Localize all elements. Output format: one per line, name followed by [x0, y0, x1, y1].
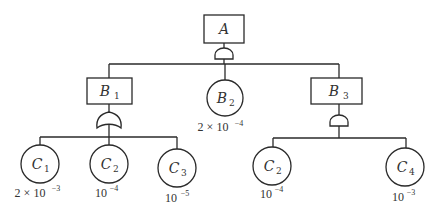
svg-text:10: 10	[260, 187, 272, 201]
and-gate-icon	[215, 48, 233, 59]
svg-text:3: 3	[181, 168, 187, 178]
svg-text:4: 4	[409, 167, 415, 177]
svg-text:−3: −3	[52, 184, 61, 193]
svg-text:−4: −4	[235, 119, 244, 128]
svg-text:−4: −4	[275, 185, 284, 194]
svg-text:−4: −4	[110, 184, 119, 193]
svg-text:3: 3	[343, 91, 349, 101]
svg-text:2: 2	[276, 166, 282, 176]
basic-event-c2-right: C 2 10 −4	[253, 147, 291, 201]
basic-event-c3: C 3 10 −5	[158, 149, 196, 205]
svg-text:C: C	[101, 156, 112, 172]
svg-text:C: C	[264, 158, 275, 174]
svg-text:2 × 10: 2 × 10	[198, 120, 229, 134]
basic-event-c1: C 1 2 × 10 −3	[15, 145, 61, 200]
svg-text:2: 2	[113, 164, 119, 174]
basic-event-c4: C 4 10 −3	[386, 148, 424, 204]
fault-tree-diagram: A B 1 B 2 2 × 10 −4 B 3 C 1	[0, 0, 447, 213]
svg-text:10: 10	[95, 186, 107, 200]
svg-text:2: 2	[229, 98, 235, 108]
event-label-a: A	[217, 21, 229, 37]
svg-text:1: 1	[114, 91, 120, 101]
svg-text:10: 10	[165, 191, 177, 205]
svg-text:1: 1	[44, 164, 50, 174]
svg-text:10: 10	[392, 190, 404, 204]
top-event-a: A	[204, 15, 244, 43]
svg-text:−3: −3	[407, 188, 416, 197]
svg-text:C: C	[169, 160, 180, 176]
svg-text:C: C	[32, 156, 43, 172]
svg-text:B: B	[328, 83, 339, 99]
intermediate-event-b3: B 3	[311, 78, 362, 104]
and-gate-icon	[330, 115, 348, 126]
svg-text:B: B	[216, 90, 227, 106]
basic-event-b2: B 2 2 × 10 −4	[198, 80, 244, 134]
svg-text:2 × 10: 2 × 10	[15, 186, 46, 200]
intermediate-event-b1: B 1	[87, 78, 132, 104]
svg-text:−5: −5	[181, 189, 190, 198]
svg-text:C: C	[397, 159, 408, 175]
svg-text:B: B	[99, 83, 110, 99]
basic-event-c2-left: C 2 10 −4	[90, 145, 128, 200]
